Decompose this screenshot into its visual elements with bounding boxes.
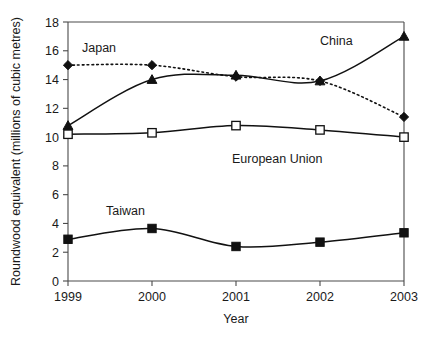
marker-european-union — [148, 129, 156, 137]
x-tick-label: 2001 — [222, 290, 250, 304]
y-tick-label: 10 — [45, 131, 59, 145]
y-axis-title: Roundwood equivalent (millions of cubic … — [9, 17, 23, 286]
y-tick-label: 2 — [52, 246, 59, 260]
line-chart: 02468101214161819992000200120022003YearR… — [0, 0, 431, 341]
y-tick-label: 0 — [52, 275, 59, 289]
y-tick-label: 14 — [45, 73, 59, 87]
marker-taiwan — [64, 235, 72, 243]
marker-taiwan — [148, 224, 156, 232]
marker-japan — [63, 61, 72, 70]
marker-european-union — [64, 130, 72, 138]
marker-taiwan — [232, 242, 240, 250]
chart-container: 02468101214161819992000200120022003YearR… — [0, 0, 431, 341]
marker-china — [63, 121, 73, 130]
marker-japan — [399, 112, 408, 121]
marker-european-union — [400, 133, 408, 141]
marker-european-union — [316, 126, 324, 134]
x-tick-label: 1999 — [54, 290, 82, 304]
x-tick-label: 2003 — [390, 290, 418, 304]
marker-japan — [231, 72, 240, 81]
marker-taiwan — [316, 238, 324, 246]
y-tick-label: 4 — [52, 217, 59, 231]
y-tick-label: 18 — [45, 16, 59, 30]
series-label-japan: Japan — [82, 41, 116, 55]
series-label-european-union: European Union — [232, 152, 322, 166]
x-tick-label: 2000 — [138, 290, 166, 304]
x-tick-label: 2002 — [306, 290, 334, 304]
x-axis-title: Year — [223, 312, 248, 326]
marker-china — [399, 31, 409, 40]
marker-taiwan — [400, 229, 408, 237]
series-label-china: China — [320, 34, 353, 48]
y-tick-label: 16 — [45, 44, 59, 58]
series-label-taiwan: Taiwan — [106, 204, 145, 218]
y-tick-label: 6 — [52, 188, 59, 202]
marker-european-union — [232, 121, 240, 129]
y-tick-label: 12 — [45, 102, 59, 116]
y-tick-label: 8 — [52, 159, 59, 173]
marker-japan — [147, 61, 156, 70]
